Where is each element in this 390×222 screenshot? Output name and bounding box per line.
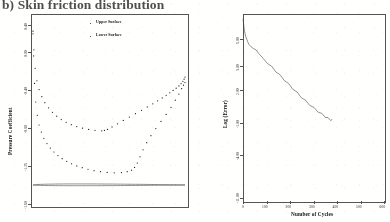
right-y-axis-title: Log (Error) <box>222 100 228 128</box>
right-x-tick-label: 600 <box>380 205 386 209</box>
right-x-tick-label: 300 <box>309 205 315 209</box>
right-x-tick <box>384 201 385 204</box>
left-plot-canvas <box>31 14 187 206</box>
right-x-tick <box>314 201 315 204</box>
right-x-tick <box>361 201 362 204</box>
right-plot-canvas <box>243 14 384 201</box>
right-y-tick-label: -1.00 <box>236 120 240 128</box>
figure-page: b) Skin friction distribution Pressure C… <box>0 0 390 222</box>
left-y-tick-label: -0.40 <box>24 87 28 95</box>
right-x-tick <box>337 201 338 204</box>
right-x-tick <box>267 201 268 204</box>
left-y-tick-label: -1.25 <box>24 163 28 171</box>
right-x-tick-label: 0 <box>242 205 244 209</box>
right-x-tick-label: 400 <box>333 205 339 209</box>
right-x-tick-label: 200 <box>286 205 292 209</box>
right-y-tick-label: -4.00 <box>236 152 240 160</box>
right-x-tick-label: 100 <box>262 205 268 209</box>
right-x-tick <box>243 201 244 204</box>
left-y-tick-label: -1.60 <box>24 201 28 209</box>
figure-caption: b) Skin friction distribution <box>2 0 202 13</box>
left-y-tick-label: -0.80 <box>24 125 28 133</box>
left-y-axis-title: Pressure Coefficient <box>7 107 13 155</box>
right-x-axis-title: Number of Cycles <box>291 211 333 217</box>
right-x-tick <box>290 201 291 204</box>
right-x-tick-label: 500 <box>356 205 362 209</box>
